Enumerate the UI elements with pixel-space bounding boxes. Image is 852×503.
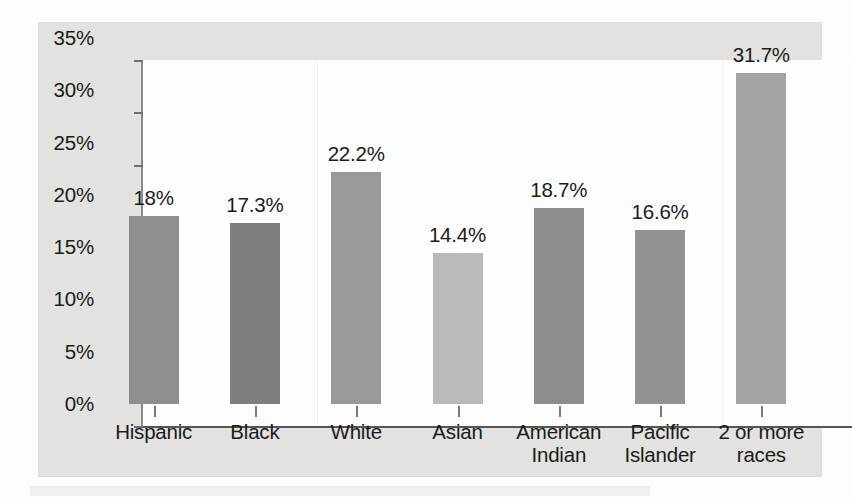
y-tick-label-5: 5% [38,342,94,363]
bar-american-indian [534,208,584,404]
bar-hispanic [129,216,179,404]
y-tick-label-30: 30% [38,80,94,101]
x-tick-label-2-or-more-races: 2 or moreraces [691,421,831,467]
bar-white [331,172,381,404]
bar-black [230,223,280,404]
bar-asian [433,253,483,404]
plot-separator-line [317,60,318,426]
x-tick-mark [255,406,257,417]
y-tick-mark-35 [134,60,143,62]
x-tick-mark [559,406,561,417]
bar-value-label: 18.7% [499,180,619,201]
x-tick-mark [660,406,662,417]
x-tick-label-line: races [691,444,831,467]
plot-separator-line [723,60,724,426]
x-tick-label-line: 2 or more [691,421,831,444]
y-tick-mark-30 [134,112,143,114]
bar-2-or-more-races [736,73,786,404]
y-tick-label-10: 10% [38,289,94,310]
bar-value-label: 31.7% [701,45,821,66]
y-tick-label-0: 0% [38,394,94,415]
y-tick-label-35: 35% [38,28,94,49]
bar-value-label: 17.3% [195,195,315,216]
x-tick-mark [761,406,763,417]
y-tick-label-15: 15% [38,237,94,258]
bar-pacific-islander [635,230,685,404]
x-tick-mark [458,406,460,417]
x-tick-mark [154,406,156,417]
y-tick-mark-25 [134,165,143,167]
y-tick-label-25: 25% [38,133,94,154]
scan-artifact [30,486,650,496]
x-tick-mark [356,406,358,417]
bar-value-label: 22.2% [296,144,416,165]
bar-value-label: 14.4% [398,225,518,246]
bar-value-label: 16.6% [600,202,720,223]
y-tick-label-20: 20% [38,185,94,206]
